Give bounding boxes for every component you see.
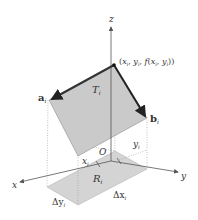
point-marker [112,63,116,67]
origin-label: O [99,147,107,157]
vector-a-label: ai [38,92,46,104]
z-axis-label: z [108,14,114,24]
y-tick-label: yi [132,139,140,150]
x-axis-label: x [12,180,17,190]
delta-x-label: Δxi [113,190,127,201]
y-axis-label: y [180,171,187,181]
point-label: (xi, yi, f(xi, yi)) [119,57,174,67]
tangent-plane-diagram: z x y O (xi, yi, f(xi, yi)) Ti ai bi Ri … [0,0,198,220]
delta-y-label: Δyi [52,197,66,208]
vector-b-label: bi [150,113,159,125]
x-tick-label: xi [82,156,89,167]
